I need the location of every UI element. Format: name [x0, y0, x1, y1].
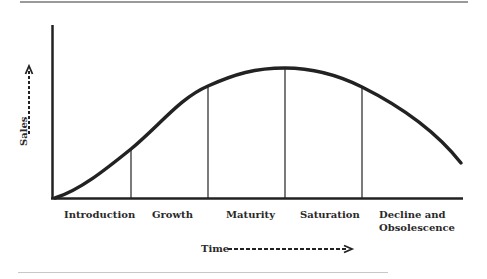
y-axis-label: Sales: [18, 117, 29, 147]
stage-decline: Decline and Obsolescence: [379, 208, 455, 234]
x-axis-label: Time: [201, 243, 229, 254]
stage-introduction: Introduction: [64, 209, 135, 220]
stage-maturity: Maturity: [226, 209, 275, 220]
stage-growth: Growth: [152, 209, 193, 220]
sales-curve: [55, 68, 461, 198]
stage-decline-line1: Decline and: [379, 208, 455, 221]
product-life-cycle-diagram: [0, 0, 487, 279]
bottom-rule: [18, 272, 388, 273]
stage-saturation: Saturation: [300, 209, 360, 220]
stage-decline-line2: Obsolescence: [379, 221, 455, 234]
